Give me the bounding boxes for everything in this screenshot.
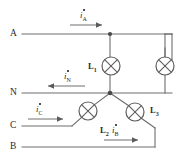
current-sub-ic: C	[39, 110, 43, 116]
phasor-dot-ib	[115, 124, 117, 126]
current-label-ib: iB	[112, 126, 119, 137]
terminal-label-n: N	[10, 88, 17, 98]
wire-l2-to-c-line	[72, 117, 82, 126]
node-star-dot	[108, 91, 113, 96]
current-arrow-ib	[104, 137, 138, 142]
circuit-diagram: A N C B L1 L2 L3 iA iN iC iB	[0, 0, 188, 163]
lamp-label-l3: L3	[150, 106, 159, 117]
terminal-label-a: A	[10, 29, 17, 39]
terminal-label-b: B	[10, 142, 16, 152]
current-label-ic: iC	[36, 105, 43, 116]
lamp-l1	[102, 57, 120, 75]
lamp-label-l2-sub: 2	[106, 131, 109, 137]
current-arrow-ia	[70, 22, 102, 27]
phasor-dot-ia	[83, 9, 85, 11]
phasor-dot-in	[67, 70, 69, 72]
lamp-label-l2: L2	[100, 126, 109, 137]
node-a-tap-dot	[108, 32, 112, 36]
lamp-label-l1-sub: 1	[94, 67, 97, 73]
current-arrow-in	[48, 83, 85, 88]
wire-star-to-l2	[94, 93, 110, 105]
lamp-l2	[79, 102, 97, 120]
circuit-schematic	[0, 0, 188, 163]
wire-l3-to-b-corner	[141, 118, 155, 128]
lamp-l3	[126, 103, 144, 121]
current-sub-in: N	[67, 77, 71, 83]
current-label-in: iN	[64, 72, 71, 83]
terminal-label-c: C	[10, 121, 16, 131]
lamp-label-l1: L1	[88, 62, 97, 73]
lamp-right-upper	[156, 57, 174, 75]
wire-star-to-l3	[110, 93, 129, 106]
current-arrow-ic	[28, 116, 63, 121]
current-sub-ib: B	[115, 131, 119, 137]
phasor-dot-ic	[39, 103, 41, 105]
lamp-label-l3-sub: 3	[156, 111, 159, 117]
current-label-ia: iA	[80, 11, 87, 22]
current-sub-ia: A	[83, 16, 87, 22]
